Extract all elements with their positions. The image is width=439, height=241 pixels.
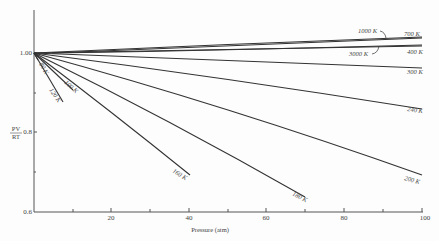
x-tick-label: 60 — [263, 214, 271, 222]
series-label: 240 K — [407, 105, 424, 114]
x-tick-label: 80 — [341, 214, 349, 222]
line-180k — [34, 53, 305, 197]
line-200k — [34, 53, 422, 175]
y-axis-label-top: PV — [12, 125, 21, 132]
y-tick-label: 0.6 — [23, 208, 32, 216]
series-label: 3000 K — [348, 50, 369, 57]
x-tick-label: 40 — [186, 214, 194, 222]
series-label: 700 K — [404, 30, 420, 37]
x-tick-label: 100 — [420, 214, 431, 222]
series-lines — [34, 37, 422, 197]
x-ticks — [73, 208, 422, 212]
chart: 20 40 60 80 100 1.00 0.8 0.6 Pressure (a… — [0, 0, 439, 241]
series-label: 100 K — [63, 79, 80, 95]
series-label: 1000 K — [358, 27, 378, 34]
series-label: 400 K — [407, 48, 423, 55]
series-label: 80 K — [38, 61, 51, 76]
leader-arrows — [372, 31, 386, 54]
series-label: 300 K — [406, 68, 423, 75]
x-tick-label: 20 — [108, 214, 116, 222]
y-tick-label: 1.00 — [20, 49, 33, 57]
line-240k — [34, 53, 422, 109]
x-axis-label: Pressure (atm) — [191, 226, 229, 234]
series-label: 200 K — [404, 174, 422, 185]
series-label: 180 K — [292, 190, 310, 204]
series-label: 120 K — [48, 87, 63, 104]
y-tick-label: 0.8 — [23, 128, 32, 136]
chart-svg: 20 40 60 80 100 1.00 0.8 0.6 Pressure (a… — [0, 0, 439, 241]
series-label: 160 K — [171, 167, 189, 182]
y-axis-label-bottom: RT — [12, 133, 20, 140]
